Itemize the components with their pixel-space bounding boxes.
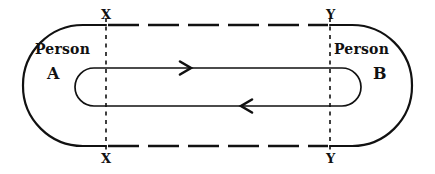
person-a-letter: A [47,66,59,82]
node-label-x-bottom: X [101,152,111,165]
node-label-x-top: X [101,8,111,21]
person-b-label: Person [334,42,389,56]
inner-stadium-loop [75,68,361,106]
person-b-letter: B [373,66,387,82]
node-label-y-bottom: Y [326,152,335,165]
person-a-label: Person [35,42,90,56]
diagram-figure: Person A Person B X X Y Y [0,0,435,174]
node-label-y-top: Y [326,8,335,21]
diagram-canvas [0,0,435,174]
